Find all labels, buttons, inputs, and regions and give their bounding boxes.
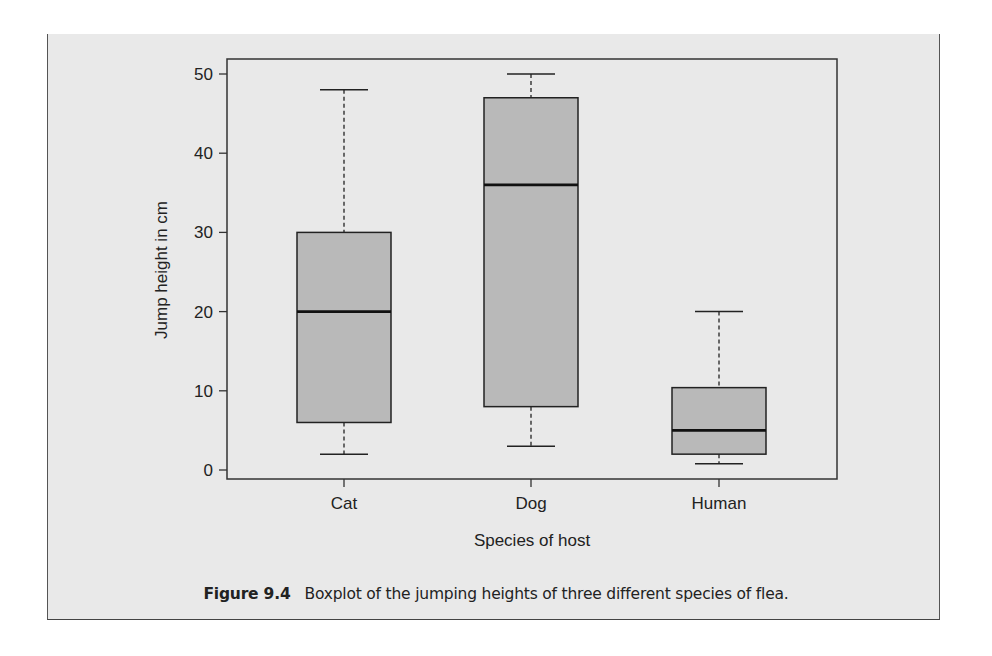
figure-label: Figure 9.4 bbox=[203, 585, 290, 603]
y-tick-label: 0 bbox=[204, 461, 213, 480]
y-tick-label: 50 bbox=[194, 65, 213, 84]
box-dog bbox=[484, 74, 578, 446]
box-human bbox=[672, 312, 766, 464]
boxplot-chart: 01020304050 CatDogHuman Jump height in c… bbox=[0, 0, 992, 656]
iqr-box bbox=[672, 388, 766, 455]
x-tick-label: Cat bbox=[331, 494, 358, 513]
x-axis-label: Species of host bbox=[474, 531, 591, 550]
iqr-box bbox=[484, 98, 578, 407]
y-axis: 01020304050 bbox=[194, 65, 227, 480]
y-tick-label: 20 bbox=[194, 303, 213, 322]
figure-caption: Figure 9.4Boxplot of the jumping heights… bbox=[0, 585, 992, 603]
y-axis-label: Jump height in cm bbox=[152, 201, 171, 339]
boxes bbox=[297, 74, 766, 464]
y-tick-label: 40 bbox=[194, 144, 213, 163]
y-tick-label: 30 bbox=[194, 223, 213, 242]
x-axis: CatDogHuman bbox=[331, 479, 747, 513]
x-tick-label: Dog bbox=[515, 494, 546, 513]
box-cat bbox=[297, 90, 391, 454]
y-tick-label: 10 bbox=[194, 382, 213, 401]
figure-caption-text: Boxplot of the jumping heights of three … bbox=[304, 585, 788, 603]
x-tick-label: Human bbox=[692, 494, 747, 513]
iqr-box bbox=[297, 232, 391, 422]
